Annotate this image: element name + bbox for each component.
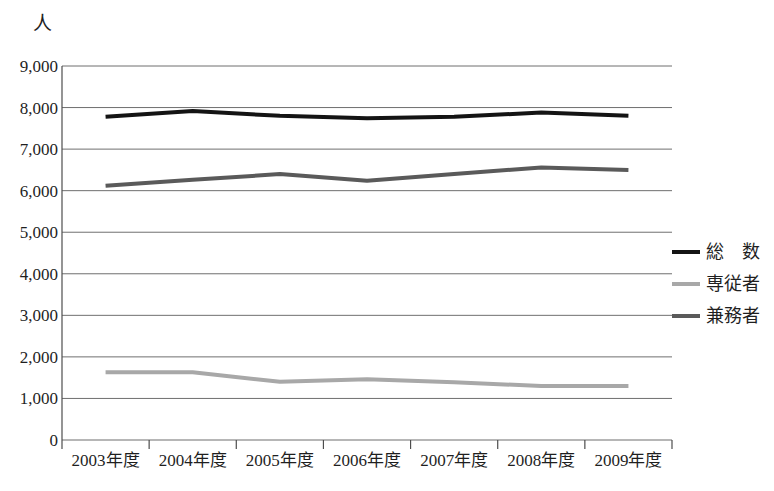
legend-line-icon — [672, 250, 700, 254]
plot-area — [0, 0, 774, 491]
series-line-total — [106, 111, 629, 118]
legend-line-icon — [672, 282, 700, 286]
legend-item-fulltime[interactable]: 専従者 — [672, 268, 772, 300]
legend-item-total[interactable]: 総 数 — [672, 236, 772, 268]
legend-label: 総 数 — [706, 243, 760, 261]
legend-label: 兼務者 — [706, 307, 760, 325]
series-line-fulltime — [106, 372, 629, 386]
line-chart: 人 9,0008,0007,0006,0005,0004,0003,0002,0… — [0, 0, 774, 491]
legend-label: 専従者 — [706, 275, 760, 293]
series-line-concurrent — [106, 167, 629, 185]
legend-item-concurrent[interactable]: 兼務者 — [672, 300, 772, 332]
legend-line-icon — [672, 314, 700, 318]
chart-legend: 総 数専従者兼務者 — [672, 236, 772, 332]
